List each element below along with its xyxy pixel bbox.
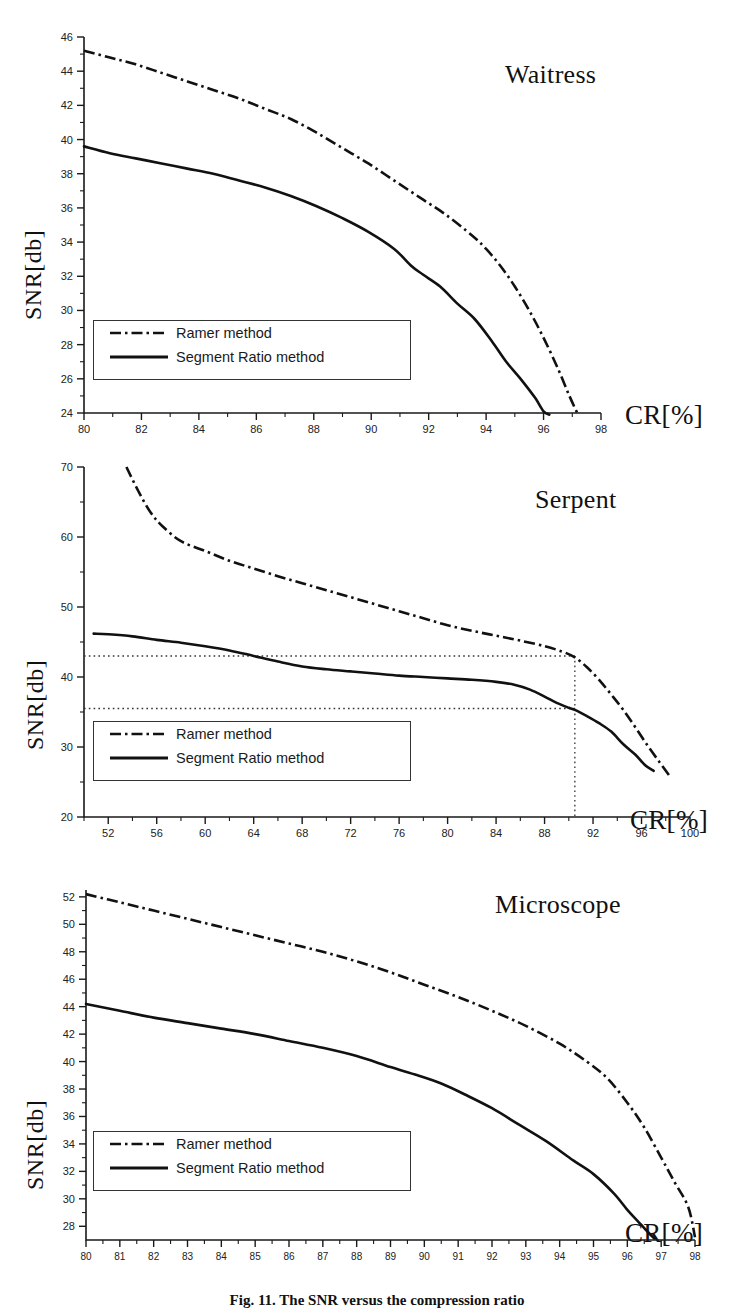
svg-text:97: 97 [656,1251,668,1262]
svg-text:84: 84 [490,827,502,839]
svg-text:30: 30 [61,304,73,316]
svg-text:84: 84 [193,423,205,435]
svg-text:95: 95 [588,1251,600,1262]
svg-text:68: 68 [296,827,308,839]
plot-area-serpent: 203040506070525660646872768084889296100 [0,440,754,860]
svg-text:24: 24 [61,407,73,419]
chart-panel-waitress: Waitress SNR[db] CR[%] 24262830323436384… [0,0,754,440]
svg-text:60: 60 [199,827,211,839]
svg-text:36: 36 [63,1110,75,1122]
svg-text:50: 50 [61,601,73,613]
svg-text:30: 30 [63,1193,75,1205]
svg-text:80: 80 [80,1251,92,1262]
svg-text:76: 76 [393,827,405,839]
svg-text:85: 85 [250,1251,262,1262]
legend-row-ramer: Ramer method [94,1132,410,1156]
plot-area-microscope: 2830323436384042444648505280818283848586… [0,860,754,1280]
svg-text:94: 94 [480,423,492,435]
svg-text:46: 46 [63,973,75,985]
svg-text:88: 88 [538,827,550,839]
svg-text:89: 89 [385,1251,397,1262]
svg-text:36: 36 [61,202,73,214]
svg-text:72: 72 [345,827,357,839]
svg-text:28: 28 [61,339,73,351]
legend-row-ramer: Ramer method [94,321,410,345]
chart-panel-serpent: Serpent SNR[db] CR[%] 203040506070525660… [0,440,754,860]
svg-text:34: 34 [61,236,73,248]
svg-text:30: 30 [61,741,73,753]
svg-text:32: 32 [61,270,73,282]
svg-text:50: 50 [63,918,75,930]
svg-text:88: 88 [308,423,320,435]
svg-text:48: 48 [63,946,75,958]
svg-text:81: 81 [114,1251,126,1262]
legend-row-ramer: Ramer method [94,722,410,746]
svg-text:34: 34 [63,1138,75,1150]
legend-label-ramer: Ramer method [176,726,272,742]
legend-row-segment: Segment Ratio method [94,1156,410,1180]
svg-text:90: 90 [365,423,377,435]
legend-swatch-ramer-icon [110,728,168,740]
legend-row-segment: Segment Ratio method [94,746,410,770]
svg-text:40: 40 [63,1056,75,1068]
svg-text:87: 87 [317,1251,329,1262]
legend-microscope: Ramer method Segment Ratio method [93,1131,411,1191]
svg-text:64: 64 [248,827,260,839]
svg-text:88: 88 [351,1251,363,1262]
svg-text:84: 84 [216,1251,228,1262]
legend-swatch-ramer-icon [110,327,168,339]
legend-label-segment: Segment Ratio method [176,750,324,766]
svg-text:92: 92 [486,1251,498,1262]
svg-text:40: 40 [61,134,73,146]
svg-text:92: 92 [423,423,435,435]
svg-text:96: 96 [635,827,647,839]
svg-text:90: 90 [419,1251,431,1262]
legend-label-segment: Segment Ratio method [176,1160,324,1176]
svg-text:80: 80 [78,423,90,435]
legend-swatch-segment-icon [110,1162,168,1174]
svg-text:52: 52 [102,827,114,839]
svg-text:40: 40 [61,671,73,683]
svg-text:52: 52 [63,891,75,903]
svg-text:100: 100 [681,827,699,839]
svg-text:46: 46 [61,31,73,43]
legend-serpent: Ramer method Segment Ratio method [93,721,411,781]
svg-text:93: 93 [520,1251,532,1262]
svg-text:80: 80 [441,827,453,839]
svg-text:44: 44 [61,65,73,77]
svg-text:70: 70 [61,461,73,473]
svg-text:83: 83 [182,1251,194,1262]
svg-text:91: 91 [453,1251,465,1262]
svg-text:86: 86 [283,1251,295,1262]
svg-text:82: 82 [135,423,147,435]
svg-text:44: 44 [63,1001,75,1013]
svg-text:32: 32 [63,1165,75,1177]
svg-text:38: 38 [61,168,73,180]
svg-text:82: 82 [148,1251,160,1262]
svg-text:56: 56 [151,827,163,839]
legend-label-ramer: Ramer method [176,1136,272,1152]
svg-text:92: 92 [587,827,599,839]
svg-text:96: 96 [622,1251,634,1262]
legend-label-segment: Segment Ratio method [176,349,324,365]
svg-text:86: 86 [250,423,262,435]
svg-text:96: 96 [537,423,549,435]
legend-swatch-segment-icon [110,752,168,764]
legend-label-ramer: Ramer method [176,325,272,341]
svg-text:42: 42 [61,99,73,111]
legend-waitress: Ramer method Segment Ratio method [93,320,411,380]
svg-text:26: 26 [61,373,73,385]
svg-text:42: 42 [63,1028,75,1040]
svg-text:20: 20 [61,811,73,823]
svg-text:60: 60 [61,531,73,543]
legend-swatch-ramer-icon [110,1138,168,1150]
legend-swatch-segment-icon [110,351,168,363]
svg-text:98: 98 [689,1251,701,1262]
chart-panel-microscope: Microscope SNR[db] CR[%] 283032343638404… [0,860,754,1280]
svg-text:98: 98 [595,423,607,435]
figure-caption: Fig. 11. The SNR versus the compression … [0,1292,754,1309]
svg-text:28: 28 [63,1220,75,1232]
svg-text:38: 38 [63,1083,75,1095]
legend-row-segment: Segment Ratio method [94,345,410,369]
